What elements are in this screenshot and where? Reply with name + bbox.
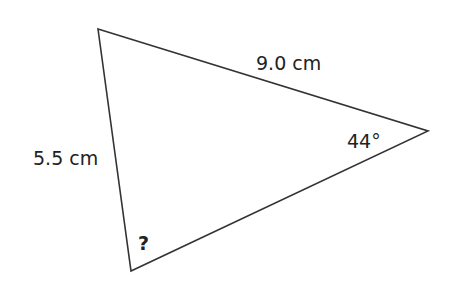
angle-label-unknown: ? xyxy=(138,232,149,254)
side-label-left: 5.5 cm xyxy=(33,147,98,169)
angle-label-right: 44° xyxy=(347,130,381,152)
side-label-top: 9.0 cm xyxy=(256,52,321,74)
triangle-diagram: 9.0 cm 5.5 cm 44° ? xyxy=(0,0,457,290)
